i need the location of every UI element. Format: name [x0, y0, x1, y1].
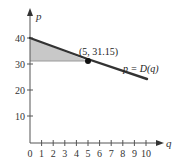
x-tick-label-7: 7 — [109, 148, 114, 159]
y-tick-label-10: 10 — [15, 111, 25, 122]
point-marker — [85, 58, 91, 64]
x-tick-label-3: 3 — [62, 148, 67, 159]
x-tick-label-10: 10 — [141, 148, 151, 159]
demand-curve-chart: 10 20 30 40 0 1 2 3 4 5 6 7 8 9 10 p q (… — [0, 0, 174, 163]
curve-label-text: p = D(q) — [122, 63, 159, 75]
x-tick-label-0: 0 — [28, 148, 33, 159]
x-axis-arrow-icon — [156, 140, 164, 146]
x-axis-label: q — [166, 137, 172, 149]
y-tick-label-20: 20 — [15, 85, 25, 96]
x-tick-label-8: 8 — [120, 148, 125, 159]
x-tick-label-9: 9 — [132, 148, 137, 159]
y-axis-label: p — [35, 10, 42, 22]
x-tick-label-2: 2 — [51, 148, 56, 159]
y-tick-label-30: 30 — [15, 59, 25, 70]
y-axis-arrow-icon — [27, 8, 33, 16]
point-label: (5, 31.15) — [79, 46, 118, 58]
x-tick-label-1: 1 — [39, 148, 44, 159]
x-tick-label-6: 6 — [97, 148, 102, 159]
x-tick-label-4: 4 — [74, 148, 79, 159]
curve-label: p = D(q) — [122, 63, 159, 75]
y-tick-label-40: 40 — [15, 33, 25, 44]
x-tick-label-5: 5 — [86, 148, 91, 159]
